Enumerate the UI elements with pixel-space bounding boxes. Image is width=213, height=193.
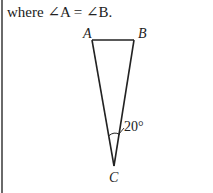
side-ac: [92, 40, 114, 166]
side-bc: [114, 40, 134, 166]
angle-arc: [109, 133, 120, 136]
triangle-figure: A B C 20°: [0, 0, 213, 193]
triangle-shape: [92, 40, 134, 166]
angle-label: 20°: [124, 119, 144, 134]
vertex-label-a: A: [82, 26, 92, 41]
vertex-label-c: C: [109, 170, 119, 185]
vertex-label-b: B: [138, 26, 147, 41]
